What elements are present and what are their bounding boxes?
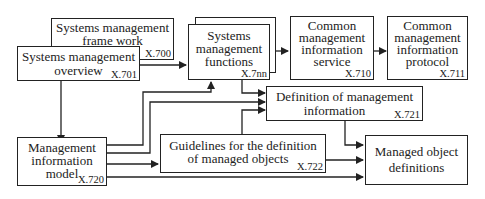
node-cmip-code: X.711 [439, 68, 465, 79]
node-mod[interactable]: Managed object definitions [365, 135, 468, 185]
node-overview-code: X.701 [111, 69, 137, 80]
node-gdmo-line2: of managed objects [161, 152, 315, 165]
node-cmip-line4: protocol [388, 55, 467, 68]
node-cmis-code: X.710 [345, 68, 371, 79]
node-framework-code: X.700 [145, 48, 171, 59]
node-overview[interactable]: Systems management overview X.701 [17, 46, 140, 81]
node-dmi-line1: Definition of management [267, 90, 422, 103]
node-mod-line2: definitions [366, 161, 467, 174]
edge-dmi-mod [345, 120, 363, 145]
node-overview-line1: Systems management [18, 50, 139, 63]
node-dmi[interactable]: Definition of management information X.7… [266, 86, 423, 121]
node-mod-line1: Managed object [366, 145, 467, 158]
edge-gdmo-dmi [242, 110, 265, 134]
node-mim[interactable]: Management information model X.720 [17, 137, 107, 186]
node-functions[interactable]: Systems management functions X.7nn [188, 24, 270, 80]
node-cmip[interactable]: Common management information protocol X… [387, 16, 468, 80]
edge-functions-dmi [242, 80, 265, 93]
node-dmi-line2: information [267, 104, 402, 117]
node-gdmo[interactable]: Guidelines for the definition of managed… [160, 134, 326, 173]
node-cmis[interactable]: Common management information service X.… [290, 16, 374, 80]
node-gdmo-code: X.722 [297, 161, 323, 172]
node-functions-code: X.7nn [241, 68, 267, 79]
node-cmis-line4: service [291, 55, 373, 68]
node-functions-line3: functions [189, 55, 269, 68]
node-mim-code: X.720 [78, 174, 104, 185]
node-dmi-code: X.721 [394, 109, 420, 120]
